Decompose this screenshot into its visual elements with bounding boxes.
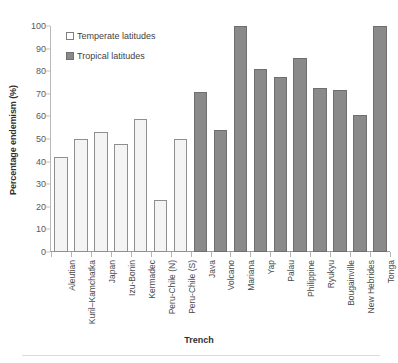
x-label-slot: Ryukyu [312,260,332,340]
legend-label: Temperate latitudes [77,31,156,41]
y-tick-label: 60 [24,112,46,121]
x-label-slot: Tonga [372,260,392,340]
y-tick-label: 40 [24,157,46,166]
bar [54,157,68,252]
y-tick-label: 80 [24,67,46,76]
x-axis-tick-label: Tonga [386,260,395,283]
bar [94,132,108,252]
y-tick-label: 30 [24,180,46,189]
x-tick-mark [151,252,152,257]
x-label-slot: Aleutian [53,260,73,340]
x-tick-mark [250,252,251,257]
x-tick-mark [211,252,212,257]
y-tick-label: 70 [24,89,46,98]
bar [154,200,168,252]
legend-item[interactable]: Temperate latitudes [66,31,156,41]
y-tick-label: 0 [24,248,46,257]
bottom-divider [22,355,380,356]
x-tick-mark [270,252,271,257]
bar [114,144,128,252]
x-label-slot: Peru-Chile (S) [173,260,193,340]
x-label-slot: Japan [93,260,113,340]
x-tick-mark [191,252,192,257]
legend-item[interactable]: Tropical latitudes [66,51,156,61]
bar [373,26,387,252]
bar [214,130,228,252]
y-tick-label: 20 [24,202,46,211]
x-tick-mark [390,252,391,257]
x-tick-mark [370,252,371,257]
x-tick-mark [350,252,351,257]
bar [234,26,248,252]
y-tick-label: 90 [24,44,46,53]
x-label-slot: Philippine [292,260,312,340]
x-tick-mark [310,252,311,257]
x-axis-category-labels: AleutianKuril–KamchatkaJapanIzu-BoninKer… [53,260,392,340]
bar-slot [370,26,390,252]
bar [174,139,188,252]
bar-slot [250,26,270,252]
x-tick-mark [51,252,52,257]
bar-slot [310,26,330,252]
x-tick-mark [330,252,331,257]
bar [313,88,327,252]
x-label-slot: Mariana [232,260,252,340]
y-axis-title: Percentage endemism (%) [2,0,24,280]
bar-slot [230,26,250,252]
x-label-slot: Kermadec [133,260,153,340]
x-tick-mark [171,252,172,257]
legend-label: Tropical latitudes [77,51,145,61]
x-label-slot: Izu-Bonin [113,260,133,340]
x-label-slot: Kuril–Kamchatka [73,260,93,340]
y-tick-label: 100 [24,22,46,31]
bar-slot [270,26,290,252]
x-label-slot: Peru-Chile (N) [153,260,173,340]
bar [353,115,367,252]
y-tick-labels: 0102030405060708090100 [24,18,46,258]
x-tick-mark [111,252,112,257]
y-axis-title-label: Percentage endemism (%) [8,85,18,195]
legend-swatch-tropical [66,52,74,60]
bar [254,69,268,252]
x-label-slot: New Hebrides [352,260,372,340]
bar [74,139,88,252]
bar-slot [171,26,191,252]
x-tick-mark [290,252,291,257]
x-tick-marks [50,252,390,257]
x-tick-mark [230,252,231,257]
x-label-slot: Bougainville [332,260,352,340]
bar-slot [191,26,211,252]
y-tick-label: 50 [24,135,46,144]
bar-slot [330,26,350,252]
x-label-slot: Yap [252,260,272,340]
bar-slot [350,26,370,252]
x-tick-mark [71,252,72,257]
x-label-slot: Volcano [213,260,233,340]
bar [134,119,148,252]
x-label-slot: Palau [272,260,292,340]
bar [333,90,347,252]
x-axis-title: Trench [0,335,398,345]
chart-legend: Temperate latitudesTropical latitudes [66,31,156,61]
bar [274,77,288,252]
bar-slot [290,26,310,252]
x-label-slot: Java [193,260,213,340]
x-tick-mark [91,252,92,257]
bar [293,58,307,252]
bar [194,92,208,252]
x-tick-mark [131,252,132,257]
legend-swatch-temperate [66,32,74,40]
chart-figure: Percentage endemism (%) 0102030405060708… [0,0,398,363]
y-tick-label: 10 [24,225,46,234]
bar-slot [211,26,231,252]
